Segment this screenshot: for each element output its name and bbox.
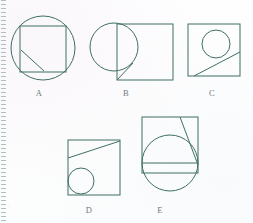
figure-e-diagonal-line (180, 117, 198, 165)
figure-label-a: A (29, 88, 49, 98)
worksheet-page: A B C D E · (0, 0, 253, 223)
figure-label-c: C (202, 88, 222, 98)
figure-label-e: E (150, 205, 170, 215)
figure-b-diagonal-line (117, 63, 133, 80)
figure-c-circle (202, 30, 230, 58)
stray-pencil-mark: · (8, 204, 10, 209)
figure-d-circle (68, 168, 94, 194)
figure-e-square (142, 117, 198, 173)
figure-label-d: D (79, 205, 99, 215)
figure-a (11, 16, 75, 80)
figure-d-square (68, 140, 120, 195)
figure-c-tangent-line (194, 52, 240, 76)
figure-d (68, 140, 120, 195)
figure-a-diagonal-line (21, 50, 44, 71)
figure-label-b: B (116, 88, 136, 98)
figure-b-circle (90, 23, 138, 71)
figure-e (142, 117, 198, 191)
figure-c (188, 24, 240, 76)
figure-a-square (20, 26, 66, 72)
figure-c-square (188, 24, 240, 76)
figure-d-diagonal-line (68, 141, 120, 158)
figure-b (90, 23, 173, 80)
figures-canvas (0, 0, 253, 223)
